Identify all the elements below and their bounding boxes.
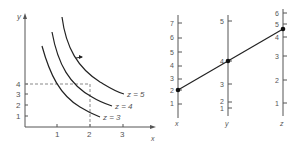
z-scale-tick-3: 3 [275, 53, 279, 60]
y-axis-label: y [16, 12, 22, 21]
y-scale-tick-3: 3 [220, 81, 224, 88]
y-scale-tick-1: 1 [220, 105, 224, 112]
nomogram: 1 2 3 4 5 6 7 x 1 2 3 4 5 y [170, 9, 287, 128]
z-scale-label: z [279, 120, 284, 127]
x-axis-label: x [150, 135, 155, 142]
x-scale-tick-6: 6 [170, 34, 174, 41]
curve-z3 [42, 46, 100, 117]
curve-label-z5: z = 5 [126, 90, 145, 99]
x-tick-3: 3 [120, 130, 125, 139]
y-axis-arrow-icon [23, 13, 27, 19]
point-x [176, 88, 181, 93]
y-tick-3: 3 [16, 90, 21, 99]
point-z [281, 27, 286, 32]
z-scale-tick-1: 1 [275, 100, 279, 107]
x-scale-tick-1: 1 [170, 100, 174, 107]
curve-z5 [62, 17, 124, 94]
curve-z4 [52, 32, 112, 106]
y-tick-2: 2 [16, 101, 21, 110]
y-scale-label: y [224, 120, 229, 128]
x-scale-tick-2: 2 [170, 87, 174, 94]
z-scale-tick-2: 2 [275, 77, 279, 84]
curve-label-z4: z = 4 [114, 102, 133, 111]
curve-label-z3: z = 3 [102, 113, 121, 122]
z-scale-tick-4: 4 [275, 34, 279, 41]
level-curve-chart: y x 1 2 3 1 2 3 4 z = 3 z = 4 z = 5 [16, 12, 156, 142]
z-scale-tick-5: 5 [275, 21, 279, 28]
x-tick-2: 2 [87, 130, 92, 139]
z-scale-tick-6: 6 [275, 10, 279, 17]
x-axis-arrow-icon [150, 125, 156, 129]
figure: y x 1 2 3 1 2 3 4 z = 3 z = 4 z = 5 [0, 0, 306, 144]
x-scale-label: x [174, 120, 179, 127]
x-scale-tick-4: 4 [170, 62, 174, 69]
point-y [226, 59, 231, 64]
x-scale-tick-5: 5 [170, 49, 174, 56]
y-tick-1: 1 [16, 112, 21, 121]
y-scale-tick-5: 5 [220, 18, 224, 25]
y-scale-tick-2: 2 [220, 98, 224, 105]
y-tick-4: 4 [16, 80, 21, 89]
x-scale-tick-3: 3 [170, 75, 174, 82]
isopleth-line [178, 29, 283, 90]
x-scale-tick-7: 7 [170, 20, 174, 27]
x-tick-1: 1 [55, 130, 60, 139]
